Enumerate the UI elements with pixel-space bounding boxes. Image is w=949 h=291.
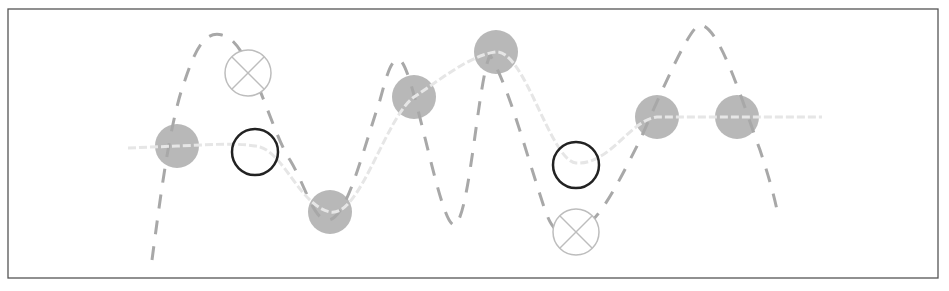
- open-circles: [232, 129, 599, 188]
- data-point: [474, 30, 518, 74]
- interpolation-diagram: [0, 0, 949, 291]
- x-circle-icon: [225, 50, 271, 96]
- open-circle-marker: [553, 142, 599, 188]
- diagram-frame: [8, 9, 938, 278]
- x-circle-icon: [553, 209, 599, 255]
